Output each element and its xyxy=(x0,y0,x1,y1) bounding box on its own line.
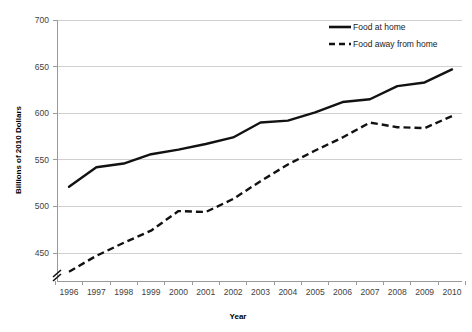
x-tick-label: 2009 xyxy=(415,287,434,297)
y-tick-label: 700 xyxy=(35,15,49,25)
x-tick-label: 2003 xyxy=(251,287,270,297)
legend-label-food-away-from-home: Food away from home xyxy=(353,39,438,49)
y-axis-title: Billions of 2010 Dollars xyxy=(14,105,23,194)
x-tick-label: 1996 xyxy=(60,287,79,297)
chart-container: 450500550600650700 199619971998199920002… xyxy=(0,0,472,332)
x-axis-title: Year xyxy=(230,312,247,321)
x-tick-label: 2000 xyxy=(169,287,188,297)
x-tick-label: 2010 xyxy=(443,287,462,297)
x-tick-label: 1999 xyxy=(142,287,161,297)
x-tick-label: 2001 xyxy=(196,287,215,297)
legend-label-food-at-home: Food at home xyxy=(353,22,406,32)
line-chart: 450500550600650700 199619971998199920002… xyxy=(0,0,472,332)
x-tick-label: 2004 xyxy=(278,287,297,297)
y-tick-label: 450 xyxy=(35,248,49,258)
y-tick-label: 650 xyxy=(35,62,49,72)
x-tick-label: 2007 xyxy=(360,287,379,297)
y-tick-label: 550 xyxy=(35,155,49,165)
x-tick-label: 1997 xyxy=(87,287,106,297)
x-tick-label: 2002 xyxy=(224,287,243,297)
x-tick-label: 2005 xyxy=(306,287,325,297)
x-tick-label: 2006 xyxy=(333,287,352,297)
x-tick-label: 1998 xyxy=(114,287,133,297)
y-tick-label: 500 xyxy=(35,201,49,211)
chart-background xyxy=(0,0,472,332)
x-tick-labels-group: 1996199719981999200020012002200320042005… xyxy=(60,287,462,297)
x-tick-label: 2008 xyxy=(388,287,407,297)
y-tick-label: 600 xyxy=(35,108,49,118)
